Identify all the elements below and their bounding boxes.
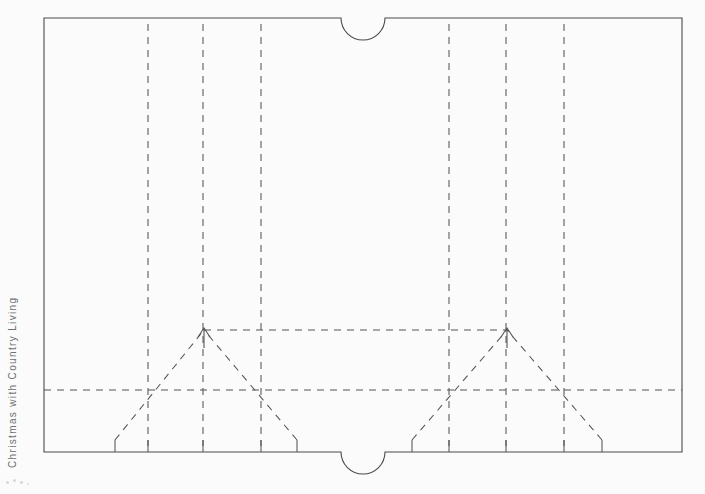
template-page: Christmas with Country Living <box>0 0 705 494</box>
outer-cut-outline <box>44 18 682 474</box>
fold-line-diagonal <box>507 330 602 440</box>
corner-dot <box>27 483 29 485</box>
fold-line-diagonal <box>115 330 204 440</box>
fold-line-diagonal <box>204 330 297 440</box>
bottom-tick-group <box>115 440 602 452</box>
credit-label: Christmas with Country Living <box>4 258 22 468</box>
peak-arrow-group <box>198 328 513 348</box>
fold-line-group <box>44 24 682 446</box>
fold-template-diagram <box>0 0 705 494</box>
corner-dot-decoration <box>4 477 44 489</box>
corner-dot <box>13 479 16 482</box>
fold-line-diagonal <box>412 330 507 440</box>
corner-dot <box>6 481 9 484</box>
corner-dot <box>20 481 23 484</box>
